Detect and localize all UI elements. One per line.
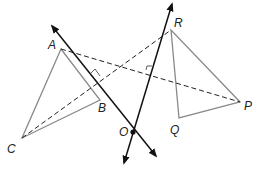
triangle-rqp: [171, 30, 240, 118]
dashed-segment-cr: [22, 30, 171, 138]
label-b: B: [98, 101, 106, 115]
label-a: A: [47, 38, 56, 52]
line-of-reflection-2: [124, 4, 172, 163]
label-r: R: [174, 16, 183, 30]
point-o-dot: [130, 129, 135, 134]
reflection-diagram: A B C R Q P O: [0, 0, 255, 175]
right-angle-marker-2: [146, 66, 152, 70]
right-angle-marker-1: [91, 69, 100, 76]
label-p: P: [244, 99, 252, 113]
triangle-abc: [22, 49, 100, 138]
label-c: C: [7, 142, 16, 156]
label-o: O: [119, 125, 128, 139]
line-of-reflection-1: [52, 26, 156, 156]
label-q: Q: [170, 123, 179, 137]
